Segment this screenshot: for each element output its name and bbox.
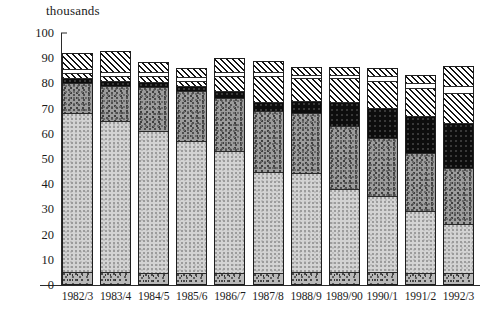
- bar-segment-segment-6-white: [444, 87, 473, 94]
- bar-segment-segment-6-white: [406, 84, 435, 89]
- bar-segment-segment-2-light-stipple: [292, 174, 321, 273]
- bar-segment-segment-7-top-hatch: [368, 69, 397, 76]
- bar-segment-segment-3-medium-stipple: [406, 154, 435, 211]
- bar-segment-segment-4-black: [444, 124, 473, 169]
- bar-1986-7[interactable]: [214, 58, 245, 285]
- bar-segment-segment-1-base: [215, 274, 244, 284]
- bar-segment-segment-1-base: [368, 273, 397, 284]
- bar-1988-9[interactable]: [291, 67, 322, 285]
- y-tick-90: 90: [42, 51, 62, 66]
- bar-segment-segment-1-base: [177, 274, 206, 284]
- bar-segment-segment-2-light-stipple: [368, 197, 397, 273]
- bar-segment-segment-3-medium-stipple: [368, 139, 397, 196]
- y-tick-100: 100: [35, 26, 61, 41]
- x-label-1983-4: 1983/4: [100, 290, 131, 302]
- bar-segment-segment-5-hatch: [215, 77, 244, 92]
- x-axis-line: [40, 285, 480, 286]
- bar-segment-segment-4-black: [63, 79, 92, 84]
- bar-segment-segment-2-light-stipple: [101, 122, 130, 273]
- bar-segment-segment-7-top-hatch: [139, 63, 168, 73]
- bar-segment-segment-6-white: [254, 73, 283, 77]
- x-label-1990-1: 1990/1: [367, 290, 398, 302]
- y-tick-70: 70: [42, 101, 62, 116]
- bar-segment-segment-2-light-stipple: [406, 212, 435, 274]
- bar-segment-segment-7-top-hatch: [215, 59, 244, 73]
- bar-1992-3[interactable]: [443, 66, 474, 285]
- bar-segment-segment-6-white: [292, 76, 321, 80]
- bar-segment-segment-1-base: [292, 273, 321, 284]
- bar-segment-segment-2-light-stipple: [330, 190, 359, 272]
- bar-segment-segment-1-base: [101, 273, 130, 284]
- bar-segment-segment-5-hatch: [292, 79, 321, 101]
- bar-segment-segment-4-black: [101, 82, 130, 87]
- bar-1987-8[interactable]: [253, 61, 284, 285]
- x-axis-labels: 1982/31983/41984/51985/61986/71987/81988…: [0, 290, 487, 312]
- x-label-1992-3: 1992/3: [443, 290, 474, 302]
- bar-segment-segment-6-white: [368, 77, 397, 82]
- bar-1984-5[interactable]: [138, 62, 169, 285]
- bar-segment-segment-2-light-stipple: [63, 114, 92, 273]
- x-label-1987-8: 1987/8: [252, 290, 283, 302]
- x-label-1986-7: 1986/7: [214, 290, 245, 302]
- bar-segment-segment-3-medium-stipple: [444, 169, 473, 225]
- bar-segment-segment-4-black: [177, 87, 206, 92]
- bar-1990-1[interactable]: [367, 68, 398, 285]
- bar-segment-segment-1-base: [139, 274, 168, 284]
- y-tick-60: 60: [42, 126, 62, 141]
- y-axis-unit-label: thousands: [46, 3, 100, 19]
- x-label-1991-2: 1991/2: [405, 290, 436, 302]
- bar-1983-4[interactable]: [100, 51, 131, 285]
- bar-segment-segment-7-top-hatch: [406, 76, 435, 85]
- bar-segment-segment-7-top-hatch: [292, 68, 321, 75]
- y-tick-40: 40: [42, 177, 62, 192]
- bar-1989-90[interactable]: [329, 67, 360, 285]
- bar-segment-segment-3-medium-stipple: [63, 84, 92, 114]
- y-tick-80: 80: [42, 76, 62, 91]
- bar-segment-segment-4-black: [406, 117, 435, 154]
- bar-segment-segment-6-white: [139, 73, 168, 77]
- bar-1985-6[interactable]: [176, 68, 207, 285]
- x-label-1982-3: 1982/3: [62, 290, 93, 302]
- bar-segment-segment-1-base: [330, 273, 359, 284]
- y-tick-10: 10: [42, 252, 62, 267]
- bar-segment-segment-2-light-stipple: [139, 132, 168, 274]
- bar-segment-segment-5-hatch: [139, 77, 168, 83]
- bar-segment-segment-7-top-hatch: [330, 68, 359, 75]
- bar-segment-segment-5-hatch: [368, 82, 397, 109]
- y-tick-30: 30: [42, 202, 62, 217]
- y-tick-50: 50: [42, 152, 62, 167]
- bar-segment-segment-4-black: [368, 109, 397, 139]
- bar-segment-segment-7-top-hatch: [63, 54, 92, 70]
- bar-segment-segment-4-black: [292, 102, 321, 114]
- bar-segment-segment-6-white: [330, 76, 359, 80]
- bar-1991-2[interactable]: [405, 75, 436, 285]
- bar-segment-segment-5-hatch: [101, 77, 130, 82]
- bar-segment-segment-7-top-hatch: [177, 69, 206, 78]
- bar-segment-segment-5-hatch: [254, 77, 283, 103]
- bar-segment-segment-1-base: [63, 273, 92, 284]
- x-label-1989-90: 1989/90: [326, 290, 363, 302]
- bar-segment-segment-5-hatch: [177, 82, 206, 87]
- bar-segment-segment-3-medium-stipple: [254, 112, 283, 173]
- bar-segment-segment-5-hatch: [330, 79, 359, 103]
- bar-1982-3[interactable]: [62, 53, 93, 285]
- bar-segment-segment-4-black: [254, 103, 283, 112]
- x-label-1985-6: 1985/6: [176, 290, 207, 302]
- bar-segment-segment-1-base: [254, 274, 283, 284]
- bar-segment-segment-4-black: [139, 83, 168, 88]
- bar-segment-segment-2-light-stipple: [177, 142, 206, 274]
- bar-segment-segment-3-medium-stipple: [101, 87, 130, 122]
- bar-segment-segment-3-medium-stipple: [177, 92, 206, 142]
- bar-segment-segment-2-light-stipple: [444, 225, 473, 274]
- bar-segment-segment-2-light-stipple: [254, 173, 283, 274]
- bar-segment-segment-1-base: [406, 274, 435, 284]
- bar-segment-segment-3-medium-stipple: [292, 114, 321, 174]
- bar-segment-segment-3-medium-stipple: [330, 127, 359, 191]
- bar-segment-segment-4-black: [330, 103, 359, 127]
- x-label-1984-5: 1984/5: [138, 290, 169, 302]
- bar-segment-segment-1-base: [444, 274, 473, 284]
- bar-segment-segment-7-top-hatch: [254, 62, 283, 73]
- bar-segment-segment-6-white: [177, 78, 206, 82]
- y-tick-20: 20: [42, 227, 62, 242]
- bar-segment-segment-6-white: [63, 70, 92, 74]
